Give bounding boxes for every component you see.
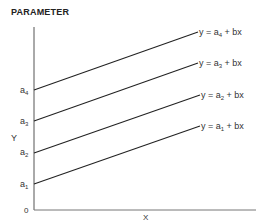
- line-a3: [34, 63, 198, 121]
- line-a4: [34, 32, 198, 90]
- x-axis-label: X: [143, 213, 149, 222]
- y-axis-label: Y: [11, 133, 17, 143]
- equation-a2: y = a2 + bx: [201, 90, 244, 101]
- equation-a4: y = a4 + bx: [199, 27, 242, 38]
- chart-plot: a4 a3 a2 a1 Y 0 X y = a4 + bx y = a3 + b…: [0, 0, 271, 223]
- line-a2: [34, 95, 200, 153]
- y-tick-a1: a1: [20, 179, 29, 190]
- y-tick-a3: a3: [20, 116, 29, 127]
- equation-a3: y = a3 + bx: [199, 58, 242, 69]
- y-tick-a4: a4: [20, 85, 29, 96]
- y-tick-a2: a2: [20, 147, 29, 158]
- line-a1: [34, 126, 200, 184]
- origin-label: 0: [24, 206, 29, 215]
- equation-a1: y = a1 + bx: [201, 121, 244, 132]
